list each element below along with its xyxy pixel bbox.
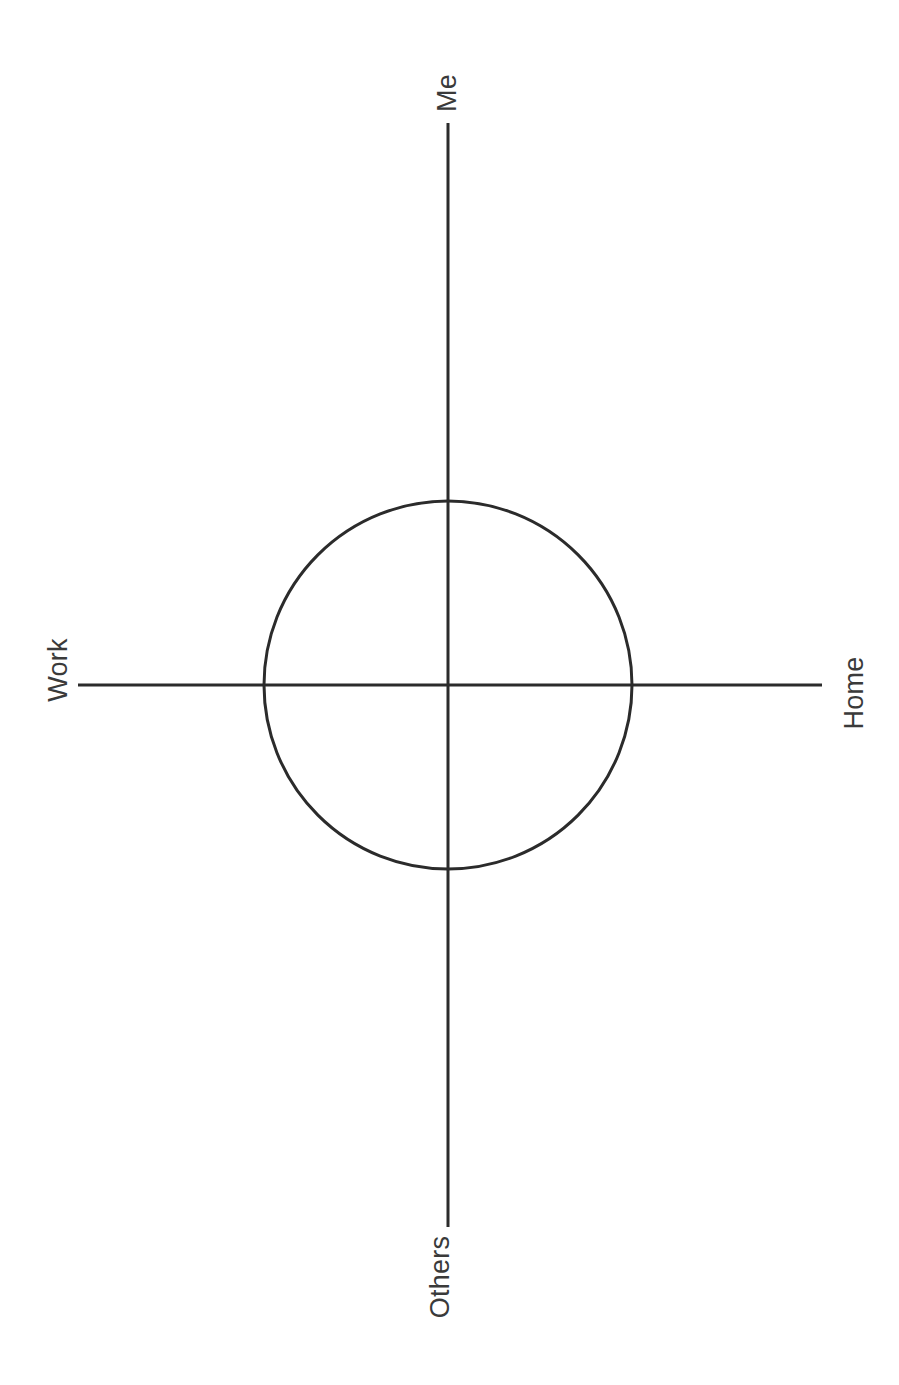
axis-label-top: Me [434,23,464,163]
axis-label-left: Work [45,600,75,740]
axis-label-bottom: Others [427,1207,457,1347]
quadrant-diagram [0,0,899,1385]
axis-label-right: Home [841,623,871,763]
